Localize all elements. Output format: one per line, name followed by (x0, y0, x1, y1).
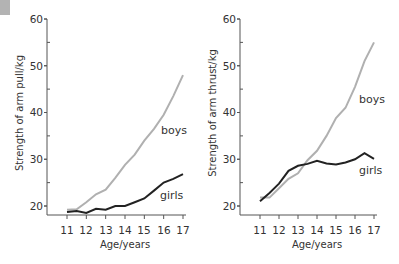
x-tick-label: 15 (137, 224, 150, 236)
x-tick-labels: 11 12 13 14 15 16 17 (60, 224, 189, 236)
x-tick-label: 15 (329, 224, 342, 236)
boys-line (260, 42, 374, 197)
y-tick-labels: 60 50 40 30 20 (223, 13, 236, 212)
y-tick-label: 40 (223, 106, 236, 118)
y-axis-title: Strength of arm thrust/kg (207, 49, 218, 177)
y-tick-label: 40 (30, 106, 43, 118)
y-tick-labels: 60 50 40 30 20 (30, 13, 43, 212)
x-tick-label: 12 (79, 224, 92, 236)
y-tick-label: 30 (30, 153, 43, 165)
y-tick-label: 30 (223, 153, 236, 165)
x-tick-label: 17 (367, 224, 380, 236)
y-tick-label: 50 (223, 60, 236, 72)
x-axis-title: Age/years (292, 239, 342, 250)
x-tick-label: 11 (253, 224, 266, 236)
y-tick-label: 60 (223, 13, 236, 25)
x-tick-label: 16 (348, 224, 362, 236)
axes (237, 19, 377, 219)
x-tick-label: 12 (272, 224, 285, 236)
boys-label: boys (161, 124, 187, 137)
x-tick-label: 14 (310, 224, 324, 236)
x-tick-label: 13 (99, 224, 112, 236)
girls-line (260, 153, 374, 201)
x-axis-title: Age/years (100, 239, 150, 250)
y-axis-title: Strength of arm pull/kg (14, 55, 25, 171)
y-tick-label: 20 (223, 200, 236, 212)
y-tick-label: 60 (30, 13, 43, 25)
girls-label: girls (160, 189, 184, 202)
charts-canvas: 60 50 40 30 20 11 12 13 14 15 16 17 Age/… (0, 0, 399, 264)
x-tick-label: 17 (176, 224, 189, 236)
y-tick-label: 20 (30, 200, 43, 212)
girls-label: girls (359, 164, 383, 177)
boys-label: boys (359, 93, 385, 106)
x-tick-label: 11 (60, 224, 73, 236)
arm-thrust-chart: 60 50 40 30 20 11 12 13 14 15 16 17 Age/… (207, 13, 385, 250)
arm-pull-chart: 60 50 40 30 20 11 12 13 14 15 16 17 Age/… (14, 13, 190, 250)
y-tick-label: 50 (30, 60, 43, 72)
x-tick-label: 13 (291, 224, 304, 236)
x-tick-label: 16 (157, 224, 171, 236)
x-tick-label: 14 (118, 224, 132, 236)
x-tick-labels: 11 12 13 14 15 16 17 (253, 224, 380, 236)
